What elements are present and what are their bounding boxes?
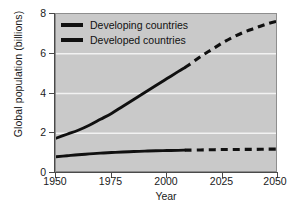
series-line-developed-historic [56,150,185,157]
legend-item-developing: Developing countries [61,18,188,31]
y-tick-label: 8 [30,7,46,19]
gridlines [56,54,277,134]
y-tick-label: 4 [30,87,46,99]
series-line-developing-historic [56,68,185,139]
plot-area: Developing countries Developed countries [55,13,277,172]
y-axis-spine [54,13,55,173]
y-axis-title: Global population (billions) [12,0,24,154]
x-tick-label: 2000 [144,175,188,187]
y-tick-label: 2 [30,126,46,138]
x-axis-title: Year [55,190,277,202]
legend-label: Developing countries [90,19,188,31]
x-tick-label: 1950 [33,175,77,187]
legend-swatch-icon [61,23,83,27]
chart-figure: Global population (billions) 0 2 4 6 8 [0,0,293,211]
x-tick-label: 1975 [89,175,133,187]
series-line-developing-projection [185,21,277,68]
x-tick-label: 2050 [253,175,293,187]
x-tick-label: 2025 [200,175,244,187]
legend-item-developed: Developed countries [61,33,188,46]
legend: Developing countries Developed countries [61,18,188,48]
legend-label: Developed countries [90,34,186,46]
legend-swatch-icon [61,38,83,42]
series-line-developed-projection [185,149,277,150]
y-tick-label: 6 [30,47,46,59]
